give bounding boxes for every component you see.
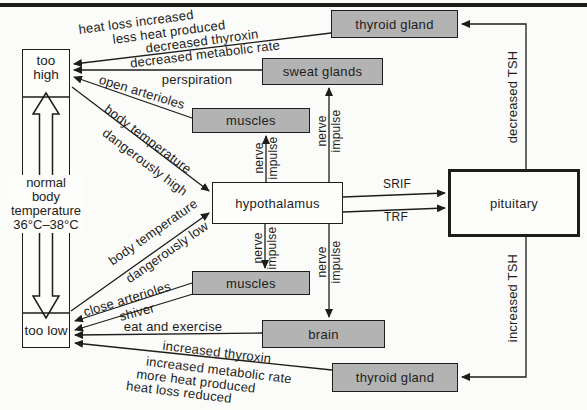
impulse-word: impulse (265, 227, 279, 270)
too-low-label: too low (23, 324, 69, 338)
normal-body-temperature-label: normal body temperature 36°C–38°C (9, 175, 83, 233)
box-thyroid-gland-bottom: thyroid gland (332, 363, 458, 392)
label-increased-tsh: increased TSH (505, 254, 520, 342)
label-srif: SRIF (383, 177, 411, 191)
impulse-word: impulse (329, 110, 343, 153)
label-nerve-impulse-sweat-glands: nerve impulse (315, 110, 343, 153)
normal-temp-line-1: normal (11, 176, 81, 190)
label-nerve-impulse-muscles-bottom: nerve impulse (251, 227, 279, 270)
nerve-word: nerve (252, 137, 266, 180)
normal-temp-line-4: 36°C–38°C (11, 218, 81, 232)
label-nerve-impulse-muscles-top: nerve impulse (252, 137, 280, 180)
nerve-word: nerve (251, 227, 265, 270)
box-muscles-bottom: muscles (192, 271, 310, 295)
normal-temp-line-2: body (11, 190, 81, 204)
thermoregulation-feedback-diagram: thyroid gland sweat glands muscles hypot… (0, 0, 587, 410)
box-thyroid-gland-top: thyroid gland (331, 10, 458, 38)
label-nerve-impulse-brain: nerve impulse (315, 241, 343, 284)
box-sweat-glands: sweat glands (262, 58, 383, 85)
impulse-word: impulse (266, 137, 280, 180)
label-decreased-tsh: decreased TSH (505, 51, 520, 144)
nerve-word: nerve (315, 110, 329, 153)
box-brain: brain (262, 320, 385, 348)
box-pituitary: pituitary (448, 169, 580, 237)
box-hypothalamus: hypothalamus (212, 182, 343, 224)
normal-temp-line-3: temperature (11, 204, 81, 218)
label-perspiration: perspiration (162, 72, 232, 87)
too-high-label: too high (23, 54, 69, 82)
nerve-word: nerve (315, 241, 329, 284)
label-eat-and-exercise: eat and exercise (124, 319, 223, 334)
label-trf: TRF (384, 210, 408, 224)
box-muscles-top: muscles (192, 108, 310, 133)
impulse-word: impulse (329, 241, 343, 284)
connector-srif (343, 193, 445, 197)
